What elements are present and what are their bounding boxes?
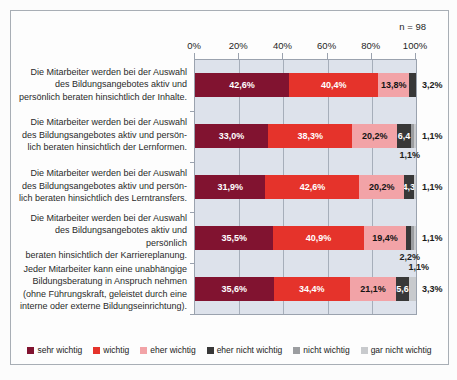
segment-value-label: 1,1% (399, 150, 420, 160)
segment-value-label: 2,2% (399, 252, 420, 262)
stacked-bar: 42,6%40,4%13,8%3,2% (195, 73, 416, 97)
bar-segment: 42,6% (265, 175, 359, 199)
legend-label: eher wichtig (150, 345, 195, 355)
category-label: Die Mitarbeiter werden bei der Auswahlde… (17, 211, 187, 262)
legend-label: wichtig (103, 345, 129, 355)
plot-area: 42,6%40,4%13,8%3,2%33,0%38,3%20,2%6,41,1… (194, 59, 417, 315)
legend-item: eher wichtig (140, 345, 195, 355)
stacked-bar: 33,0%38,3%20,2%6,41,1%1,1% (195, 124, 416, 148)
bar-segment: 21,1% (350, 277, 397, 301)
axis-tick-label: 100% (403, 40, 427, 51)
legend-swatch (140, 347, 147, 354)
legend-swatch (293, 347, 300, 354)
bar-segment: 38,3% (268, 124, 353, 148)
segment-value-label: 3,2% (422, 80, 443, 90)
x-axis: 0%20%40%60%80%100% (194, 40, 415, 52)
legend-swatch (361, 347, 368, 354)
legend-item: wichtig (93, 345, 129, 355)
bar-segment: 13,8% (378, 73, 408, 97)
category-label-line: Die Mitarbeiter werden bei der Auswahl (17, 167, 187, 180)
bar-segment: 4,3 (404, 175, 413, 199)
bar-segment: 35,5% (195, 226, 273, 250)
category-label-line: des Bildungsangebotes aktiv und persönli… (17, 224, 187, 249)
bar-segment (414, 124, 416, 148)
category-label-line: interne oder externe Bildungseinrichtung… (17, 300, 187, 313)
chart-frame: n = 98 0%20%40%60%80%100% Die Mitarbeite… (10, 10, 449, 365)
axis-tick-label: 0% (187, 40, 201, 51)
bar-segment: 31,9% (195, 175, 265, 199)
legend-label: eher nicht wichtig (217, 345, 283, 355)
legend-item: gar nicht wichtig (361, 345, 432, 355)
category-label-line: lich beraten hinsichtlich des Lerntransf… (17, 192, 187, 205)
axis-tick-label: 40% (273, 40, 292, 51)
category-label-line: (ohne Führungskraft, geleistet durch ein… (17, 288, 187, 301)
axis-tick-label: 20% (229, 40, 248, 51)
segment-value-label: 3,3% (422, 284, 443, 294)
stacked-bar: 35,6%34,4%21,1%5,63,3% (195, 277, 416, 301)
legend-swatch (207, 347, 214, 354)
segment-value-label: 1,1% (422, 131, 443, 141)
bar-row: 31,9%42,6%20,2%4,31,1% (195, 162, 416, 213)
bar-row: 42,6%40,4%13,8%3,2% (195, 60, 416, 111)
axis-tick-label: 60% (317, 40, 336, 51)
category-label-line: Die Mitarbeiter werden bei der Auswahl (17, 212, 187, 225)
bar-segment: 20,2% (352, 124, 397, 148)
axis-tick-label: 80% (361, 40, 380, 51)
bar-segment: 42,6% (195, 73, 289, 97)
bar-segment (409, 277, 416, 301)
legend-item: nicht wichtig (293, 345, 349, 355)
bar-row: 35,6%34,4%21,1%5,63,3% (195, 263, 416, 314)
bar-segment (409, 73, 416, 97)
category-label-line: beraten hinsichtlich der Karriereplanung… (17, 249, 187, 262)
segment-value-label: 1,1% (422, 182, 443, 192)
legend-label: nicht wichtig (303, 345, 349, 355)
bar-segment: 6,4 (397, 124, 411, 148)
category-label: Die Mitarbeiter werden bei der Auswahlde… (17, 59, 187, 110)
category-label-line: des Bildungsangebotes aktiv und persön- (17, 129, 187, 142)
legend-label: gar nicht wichtig (371, 345, 432, 355)
bar-row: 33,0%38,3%20,2%6,41,1%1,1% (195, 111, 416, 162)
category-label-line: Die Mitarbeiter werden bei der Auswahl (17, 66, 187, 79)
stacked-bar: 31,9%42,6%20,2%4,31,1% (195, 175, 416, 199)
category-label-line: Die Mitarbeiter werden bei der Auswahl (17, 116, 187, 129)
bar-segment: 19,4% (364, 226, 407, 250)
segment-value-label: 1,1% (422, 233, 443, 243)
category-label: Jeder Mitarbeiter kann eine unabhängigeB… (17, 262, 187, 313)
category-labels: Die Mitarbeiter werden bei der Auswahlde… (17, 59, 187, 313)
category-label-line: Bildungsberatung in Anspruch nehmen (17, 275, 187, 288)
category-label-line: des Bildungsangebotes aktiv und persön- (17, 180, 187, 193)
bar-row: 35,5%40,9%19,4%2,2%1,1%1,1% (195, 212, 416, 263)
bar-segment (414, 175, 416, 199)
category-label-line: des Bildungsangebotes aktiv und (17, 78, 187, 91)
category-label: Die Mitarbeiter werden bei der Auswahlde… (17, 161, 187, 212)
legend-label: sehr wichtig (37, 345, 82, 355)
bar-segment: 33,0% (195, 124, 268, 148)
bar-segment: 34,4% (274, 277, 350, 301)
category-label: Die Mitarbeiter werden bei der Auswahlde… (17, 110, 187, 161)
bar-segment (414, 226, 416, 250)
bar-rows: 42,6%40,4%13,8%3,2%33,0%38,3%20,2%6,41,1… (195, 60, 416, 314)
category-label-line: persönlich beraten hinsichtlich der Inha… (17, 91, 187, 104)
legend-swatch (27, 347, 34, 354)
bar-segment: 40,4% (289, 73, 378, 97)
category-label-line: Jeder Mitarbeiter kann eine unabhängige (17, 263, 187, 276)
bar-segment: 20,2% (359, 175, 404, 199)
bar-segment: 35,6% (195, 277, 274, 301)
legend-item: sehr wichtig (27, 345, 82, 355)
legend: sehr wichtigwichtigeher wichtigeher nich… (11, 345, 448, 355)
category-label-line: lich beraten hinsichtlich der Lernformen… (17, 141, 187, 154)
bar-segment: 40,9% (273, 226, 363, 250)
stacked-bar: 35,5%40,9%19,4%2,2%1,1%1,1% (195, 226, 416, 250)
legend-swatch (93, 347, 100, 354)
legend-item: eher nicht wichtig (207, 345, 283, 355)
bar-segment: 5,6 (396, 277, 408, 301)
sample-size-label: n = 98 (399, 21, 426, 32)
